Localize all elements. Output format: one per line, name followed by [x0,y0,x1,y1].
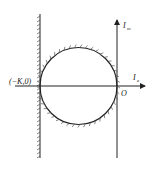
svg-text:I: I [122,21,126,30]
svg-text:I: I [132,73,136,82]
real-axis-label: I e [132,73,140,83]
svg-text:m: m [127,26,131,31]
origin-label: O [121,89,127,98]
point-label: (−K,0) [9,77,31,86]
imaginary-axis-label: I m [122,21,131,31]
svg-text:e: e [137,78,140,83]
diagram-canvas: (−K,0) O I m I e [0,0,159,172]
